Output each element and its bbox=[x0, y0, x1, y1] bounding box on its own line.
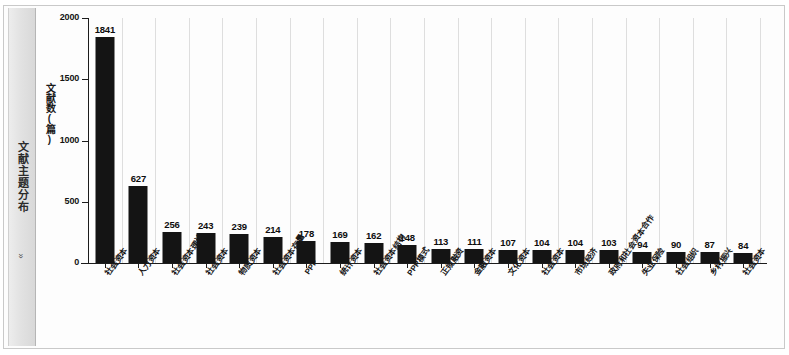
bar-column: 243 bbox=[189, 18, 223, 263]
bar-value-label: 627 bbox=[131, 173, 146, 184]
side-tab[interactable]: 文献主题分布 » bbox=[8, 8, 36, 346]
bar-column: 162 bbox=[357, 18, 391, 263]
plot-area: 1841627256243239214178169162148113111107… bbox=[88, 18, 760, 263]
bar bbox=[129, 186, 148, 263]
bar-value-label: 113 bbox=[433, 236, 448, 247]
bar-column: 113 bbox=[424, 18, 458, 263]
bar-column: 627 bbox=[122, 18, 156, 263]
bar-column: 239 bbox=[222, 18, 256, 263]
bar-column: 104 bbox=[525, 18, 559, 263]
y-tick-label: 500 bbox=[65, 196, 79, 206]
bar-value-label: 103 bbox=[601, 237, 616, 248]
y-tick-label: 1500 bbox=[60, 73, 79, 83]
y-tick-label: 1000 bbox=[60, 135, 79, 145]
bar-column: 111 bbox=[458, 18, 492, 263]
bar-value-label: 90 bbox=[671, 239, 681, 250]
bar-value-label: 256 bbox=[164, 219, 179, 230]
y-tick-mark bbox=[82, 18, 88, 19]
bar-value-label: 243 bbox=[198, 220, 213, 231]
bar-value-label: 87 bbox=[705, 239, 715, 250]
bar-column: 169 bbox=[323, 18, 357, 263]
bar-column: 90 bbox=[659, 18, 693, 263]
bar-column: 256 bbox=[155, 18, 189, 263]
y-tick-mark bbox=[82, 202, 88, 203]
bar-column: 84 bbox=[726, 18, 760, 263]
bar-value-label: 107 bbox=[500, 237, 515, 248]
bar-value-label: 169 bbox=[332, 229, 347, 240]
bar-column: 214 bbox=[256, 18, 290, 263]
bar-value-label: 111 bbox=[467, 236, 481, 247]
bar-column: 178 bbox=[290, 18, 324, 263]
y-tick-mark bbox=[82, 141, 88, 142]
bar-value-label: 214 bbox=[265, 224, 280, 235]
bar-column: 1841 bbox=[88, 18, 122, 263]
side-tab-label: 文献主题分布 bbox=[9, 8, 37, 346]
y-tick-mark bbox=[82, 263, 88, 264]
bar-column: 87 bbox=[693, 18, 727, 263]
bar-value-label: 104 bbox=[534, 237, 549, 248]
y-axis-line bbox=[88, 18, 89, 264]
bar-value-label: 162 bbox=[366, 230, 381, 241]
y-axis-title: 文献数(篇) bbox=[44, 83, 55, 145]
bar-column: 148 bbox=[390, 18, 424, 263]
bar-column: 104 bbox=[558, 18, 592, 263]
bar bbox=[95, 37, 114, 263]
bar-value-label: 104 bbox=[568, 237, 583, 248]
bar-column: 107 bbox=[491, 18, 525, 263]
grid-line bbox=[760, 18, 761, 263]
y-tick-mark bbox=[82, 79, 88, 80]
bar-chart: 文献数(篇) 184162725624323921417816916214811… bbox=[40, 5, 785, 349]
bar-value-label: 84 bbox=[738, 240, 748, 251]
y-tick-label: 2000 bbox=[60, 12, 79, 22]
y-tick-label: 0 bbox=[74, 257, 79, 267]
bar-value-label: 239 bbox=[232, 221, 247, 232]
bar-column: 103 bbox=[592, 18, 626, 263]
bar-value-label: 1841 bbox=[95, 24, 115, 35]
chevron-right-icon: » bbox=[16, 253, 26, 258]
